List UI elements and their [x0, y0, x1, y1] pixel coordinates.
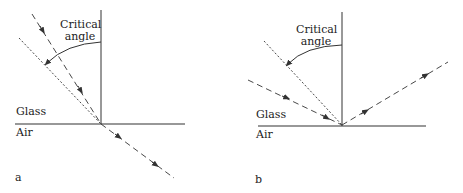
critical-angle-arc [47, 42, 101, 63]
arrow-icon [78, 86, 81, 91]
panel-a [15, 10, 185, 178]
arrow-icon [115, 134, 119, 137]
panel-letter: a [15, 172, 22, 184]
critical-angle-label-line2: angle [60, 31, 100, 43]
arrow-icon [361, 111, 366, 114]
arrow-icon [421, 75, 426, 78]
panel-letter: b [255, 174, 262, 186]
critical-angle-label-line2: angle [296, 36, 336, 48]
air-label: Air [256, 129, 273, 141]
critical-angle-diagram: Critical angle Glass Air a Critical angl… [0, 0, 463, 193]
glass-label: Glass [256, 109, 286, 121]
air-label: Air [16, 127, 33, 139]
reflected-ray [342, 62, 448, 125]
arrow-icon [40, 26, 43, 31]
glass-label: Glass [16, 106, 46, 118]
arrow-icon [152, 162, 156, 165]
refracted-ray [101, 124, 174, 178]
arrow-icon [322, 115, 327, 118]
